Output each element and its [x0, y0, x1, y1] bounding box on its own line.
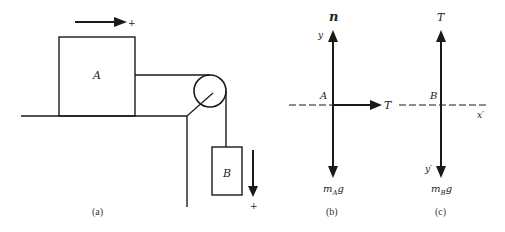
x-prime-axis-label: x′: [477, 110, 484, 120]
origin-label-a: A: [319, 90, 327, 101]
block-b-label: B: [222, 167, 231, 180]
tension-arrow-b: [436, 30, 446, 42]
y-axis-label: y: [317, 30, 324, 40]
weight-label-a: mAg: [323, 183, 344, 197]
weight-label-b: mBg: [431, 183, 452, 197]
plus-sign-a: +: [128, 18, 136, 28]
positive-direction-arrow-a: +: [75, 17, 136, 28]
tension-label-a: T: [384, 99, 393, 112]
origin-label-b: B: [429, 90, 437, 101]
panel-a-system: + A B + (a): [21, 17, 258, 218]
normal-force-arrow: [328, 30, 338, 42]
normal-force-label: n: [329, 9, 338, 24]
panel-b-free-body-a: n y A T mAg (b): [289, 9, 393, 218]
plus-sign-b: +: [250, 201, 258, 211]
positive-direction-arrow-b: +: [248, 150, 258, 211]
block-a-label: A: [92, 69, 101, 82]
pulley-bracket: [187, 93, 213, 116]
y-prime-axis-label: y′: [424, 164, 432, 174]
panel-c-free-body-b: T B x′ y′ mBg (c): [399, 11, 487, 218]
pulley-icon: [194, 75, 226, 107]
tension-arrow-a: [370, 100, 382, 110]
caption-a: (a): [92, 206, 103, 218]
physics-free-body-diagram: + A B + (a): [0, 0, 505, 232]
tension-label-b: T: [437, 11, 446, 24]
weight-arrow-b: [436, 166, 446, 178]
caption-b: (b): [326, 206, 338, 218]
caption-c: (c): [435, 206, 446, 218]
weight-arrow-a: [328, 166, 338, 178]
